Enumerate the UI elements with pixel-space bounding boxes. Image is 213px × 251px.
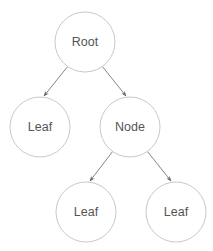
node-leaf-bottom-right-label: Leaf <box>164 205 189 219</box>
edge-node-leaf-right <box>147 151 171 181</box>
edge-node-leaf-left <box>90 151 113 181</box>
tree-diagram: Root Leaf Node Leaf Leaf <box>0 0 213 251</box>
node-root-label: Root <box>72 35 99 49</box>
edge-root-leaf <box>44 66 68 96</box>
node-leaf-bottom-left-label: Leaf <box>74 205 99 219</box>
node-internal-label: Node <box>115 120 145 134</box>
node-leaf-left-label: Leaf <box>28 120 53 134</box>
edge-root-node <box>102 66 126 96</box>
node-leaf-bottom-left: Leaf <box>56 182 116 242</box>
node-internal: Node <box>100 97 160 157</box>
node-leaf-left: Leaf <box>10 97 70 157</box>
node-root: Root <box>55 12 115 72</box>
node-leaf-bottom-right: Leaf <box>146 182 206 242</box>
